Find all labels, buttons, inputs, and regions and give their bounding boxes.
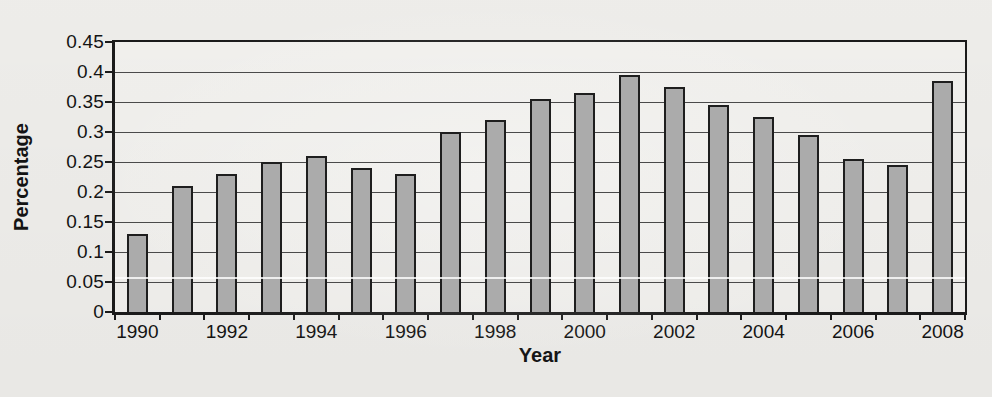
x-tick-mark bbox=[964, 313, 966, 320]
bar-2006 bbox=[843, 159, 864, 312]
x-tick-label: 1990 bbox=[92, 321, 182, 343]
x-tick-mark bbox=[338, 313, 340, 320]
x-axis-title: Year bbox=[440, 344, 640, 367]
scan-artifact-line bbox=[115, 277, 965, 279]
bar-1999 bbox=[530, 99, 551, 312]
x-tick-mark bbox=[203, 313, 205, 320]
y-tick-label: 0.05 bbox=[0, 272, 104, 292]
bar-1991 bbox=[172, 186, 193, 312]
x-tick-label: 2000 bbox=[540, 321, 630, 343]
x-tick-label: 2006 bbox=[808, 321, 898, 343]
bar-1997 bbox=[440, 132, 461, 312]
y-tick-mark bbox=[105, 71, 112, 73]
y-tick-label: 0.4 bbox=[0, 62, 104, 82]
x-tick-label: 1996 bbox=[361, 321, 451, 343]
x-tick-label: 1994 bbox=[271, 321, 361, 343]
y-tick-mark bbox=[105, 161, 112, 163]
bar-2007 bbox=[887, 165, 908, 312]
x-tick-mark bbox=[293, 313, 295, 320]
x-tick-mark bbox=[830, 313, 832, 320]
x-tick-mark bbox=[740, 313, 742, 320]
y-tick-label: 0.1 bbox=[0, 242, 104, 262]
x-tick-mark bbox=[785, 313, 787, 320]
bar-1992 bbox=[216, 174, 237, 312]
x-tick-mark bbox=[696, 313, 698, 320]
bar-2000 bbox=[574, 93, 595, 312]
x-tick-mark bbox=[919, 313, 921, 320]
bar-1994 bbox=[306, 156, 327, 312]
plot-area bbox=[112, 40, 967, 315]
x-tick-mark bbox=[517, 313, 519, 320]
y-tick-label: 0.35 bbox=[0, 92, 104, 112]
y-tick-label: 0.25 bbox=[0, 152, 104, 172]
bar-2004 bbox=[753, 117, 774, 312]
y-tick-label: 0.3 bbox=[0, 122, 104, 142]
y-tick-mark bbox=[105, 251, 112, 253]
y-tick-label: 0.45 bbox=[0, 32, 104, 52]
x-tick-mark bbox=[382, 313, 384, 320]
bar-1996 bbox=[395, 174, 416, 312]
bar-1990 bbox=[127, 234, 148, 312]
gridline bbox=[115, 72, 965, 73]
bar-2003 bbox=[708, 105, 729, 312]
x-tick-mark bbox=[248, 313, 250, 320]
y-tick-mark bbox=[105, 191, 112, 193]
x-tick-mark bbox=[606, 313, 608, 320]
x-tick-label: 1992 bbox=[182, 321, 272, 343]
x-tick-mark bbox=[561, 313, 563, 320]
y-tick-mark bbox=[105, 101, 112, 103]
y-tick-label: 0.15 bbox=[0, 212, 104, 232]
bar-2005 bbox=[798, 135, 819, 312]
x-tick-mark bbox=[651, 313, 653, 320]
x-tick-label: 2004 bbox=[719, 321, 809, 343]
x-tick-mark bbox=[114, 313, 116, 320]
x-tick-mark bbox=[427, 313, 429, 320]
x-tick-mark bbox=[875, 313, 877, 320]
x-tick-label: 1998 bbox=[450, 321, 540, 343]
figure: Percentage 00.050.10.150.20.250.30.350.4… bbox=[0, 0, 992, 397]
x-tick-mark bbox=[159, 313, 161, 320]
x-tick-label: 2008 bbox=[898, 321, 988, 343]
bar-1998 bbox=[485, 120, 506, 312]
y-tick-label: 0 bbox=[0, 302, 104, 322]
y-tick-mark bbox=[105, 281, 112, 283]
x-tick-mark bbox=[472, 313, 474, 320]
y-tick-mark bbox=[105, 221, 112, 223]
y-tick-label: 0.2 bbox=[0, 182, 104, 202]
bar-1993 bbox=[261, 162, 282, 312]
y-tick-mark bbox=[105, 131, 112, 133]
y-tick-mark bbox=[105, 311, 112, 313]
y-tick-mark bbox=[105, 41, 112, 43]
x-tick-label: 2002 bbox=[629, 321, 719, 343]
bar-1995 bbox=[351, 168, 372, 312]
